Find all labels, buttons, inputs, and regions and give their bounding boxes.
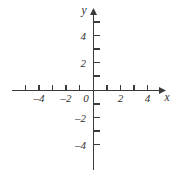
x-tick-label-2: 2 [118,92,124,104]
x-tick-label--4: –4 [33,92,46,104]
y-axis-arrowhead-icon [90,8,97,15]
origin-label: 0 [83,92,89,104]
y-tick-label--4: –4 [74,139,87,151]
x-axis-label: x [163,91,170,103]
x-tick-label--2: –2 [60,92,73,104]
y-tick-label-2: 2 [81,57,87,69]
y-tick-label-4: 4 [81,30,87,42]
x-tick-label-4: 4 [145,92,151,104]
coordinate-plane-figure: –4 –2 2 4 0 4 2 –2 –4 x y [0,0,177,179]
y-tick-label--2: –2 [74,112,87,124]
y-axis-label: y [80,4,87,17]
coordinate-plane-svg: –4 –2 2 4 0 4 2 –2 –4 x y [0,0,177,179]
